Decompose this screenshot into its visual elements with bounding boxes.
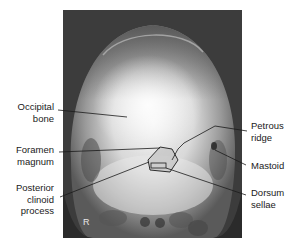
label-dorsum-sellae: Dorsum sellae <box>251 187 284 210</box>
xray-rendering <box>63 10 242 238</box>
label-line: sellae <box>251 199 284 211</box>
xray-diagram-figure: R Occipital bone Foramen magnum Posterio… <box>0 0 298 249</box>
label-line: process <box>16 205 54 217</box>
label-line: Dorsum <box>251 187 284 199</box>
label-line: Occipital <box>18 101 54 113</box>
label-line: clinoid <box>16 194 54 206</box>
label-line: Petrous <box>251 120 284 132</box>
label-line: ridge <box>251 132 284 144</box>
skull-xray-image: R <box>63 10 242 238</box>
label-line: Foramen <box>16 144 54 156</box>
label-occipital-bone: Occipital bone <box>18 101 54 124</box>
label-line: Mastoid <box>251 160 284 172</box>
label-petrous-ridge: Petrous ridge <box>251 120 284 143</box>
label-foramen-magnum: Foramen magnum <box>16 144 54 167</box>
label-line: bone <box>18 113 54 125</box>
label-posterior-clinoid-process: Posterior clinoid process <box>16 182 54 217</box>
label-mastoid: Mastoid <box>251 160 284 172</box>
label-line: Posterior <box>16 182 54 194</box>
label-line: magnum <box>16 156 54 168</box>
side-marker-r: R <box>83 217 90 227</box>
